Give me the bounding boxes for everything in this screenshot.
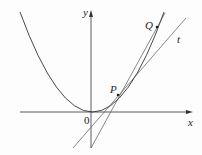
point-q [156,26,159,29]
tangent-line [73,18,186,148]
y-axis-arrow-icon [89,10,93,17]
point-p-label: P [110,84,117,95]
diagram-canvas [0,0,202,155]
point-p [117,94,120,97]
parabola [20,12,164,112]
x-axis-label: x [188,117,193,128]
diagram: y x 0 P Q t [0,0,202,155]
secant-line [91,13,165,148]
y-axis-label: y [83,7,88,18]
point-q-label: Q [145,20,153,31]
tangent-label: t [177,34,180,45]
x-axis-arrow-icon [186,110,193,114]
origin-label: 0 [84,115,90,126]
